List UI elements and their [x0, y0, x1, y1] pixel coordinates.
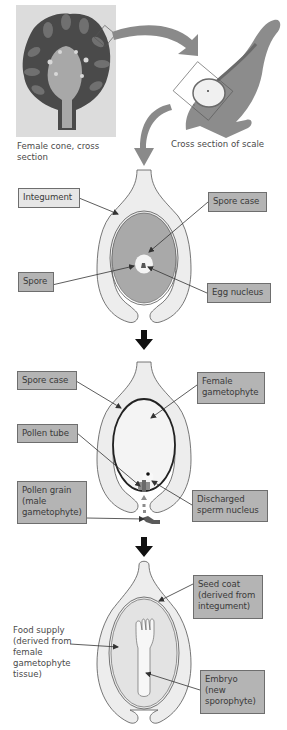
step-arrow-1 [135, 330, 153, 350]
pollination-diagram [97, 362, 191, 524]
curved-arrow-to-scale [112, 25, 198, 56]
label-spore: Spore [18, 272, 54, 292]
label-food-supply: Food supply (derived from female gametop… [13, 625, 85, 680]
female-cone-photo [16, 5, 116, 137]
scale-cross-section [173, 20, 280, 138]
label-spore-case: Spore case [208, 192, 267, 212]
label-egg-nucleus: Egg nucleus [207, 283, 271, 303]
curved-arrow-down [134, 104, 172, 166]
scale-caption: Cross section of scale [171, 139, 264, 150]
diagram-canvas [0, 0, 287, 730]
label-female-gametophyte: Female gametophyte [197, 372, 265, 404]
label-embryo: Embryo (new sporophyte) [200, 670, 265, 714]
cone-caption: Female cone, cross section [17, 141, 117, 163]
ovule-diagram [97, 170, 191, 323]
step-arrow-2 [135, 537, 153, 557]
label-pollen-grain: Pollen grain (male gametophyte) [17, 481, 87, 524]
seed-diagram [97, 561, 191, 723]
label-discharged-sperm-nucleus: Discharged sperm nucleus [192, 490, 268, 522]
label-spore-case-2: Spore case [17, 371, 77, 390]
label-pollen-tube: Pollen tube [17, 424, 78, 443]
label-integument: Integument [18, 188, 80, 208]
label-seed-coat: Seed coat (derived from integument) [193, 575, 263, 619]
